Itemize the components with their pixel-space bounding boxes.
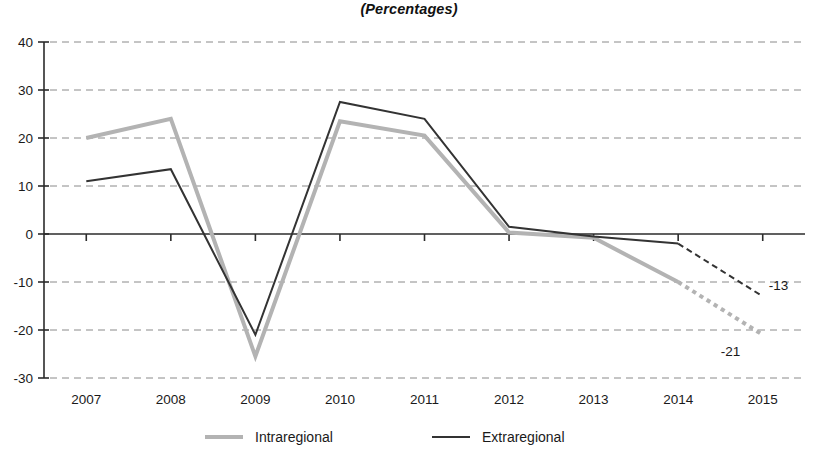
series-projection-intraregional [678,282,763,335]
y-axis-tick-label: -10 [13,275,33,290]
line-chart-plot: 403020100-10-20-30 200720082009201020112… [0,0,818,451]
legend-label-extraregional: Extraregional [482,429,565,445]
zero-axis-group [44,234,805,241]
y-axis-group: 403020100-10-20-30 [13,35,49,386]
y-axis-tick-label: -30 [13,371,33,386]
chart-legend: IntraregionalExtraregional [205,429,565,445]
series-projection-extraregional [678,244,763,297]
series-line-extraregional [86,102,678,335]
y-axis-tick-label: 40 [18,35,33,50]
x-axis-tick-label: 2015 [748,392,778,407]
x-axis-tick-label: 2008 [156,392,186,407]
data-annotations-group: -13-21 [721,278,789,358]
x-axis-tick-label: 2014 [663,392,694,407]
x-axis-tick-label: 2013 [579,392,609,407]
x-axis-tick-label: 2007 [71,392,101,407]
x-axis-tick-label: 2009 [240,392,270,407]
y-axis-tick-label: 20 [18,131,33,146]
data-label-extraregional: -13 [769,278,789,293]
gridlines-group [50,42,805,378]
x-axis-labels-group: 200720082009201020112012201320142015 [71,392,777,407]
y-axis-tick-label: 10 [18,179,33,194]
x-axis-tick-label: 2012 [494,392,524,407]
y-axis-tick-label: 30 [18,83,33,98]
legend-label-intraregional: Intraregional [255,429,333,445]
y-axis-tick-label: 0 [25,227,33,242]
y-axis-tick-label: -20 [13,323,33,338]
data-series-group [86,102,762,356]
x-axis-tick-label: 2011 [410,392,439,407]
chart-figure: (Percentages) 403020100-10-20-30 2007200… [0,0,818,451]
series-line-intraregional [86,119,678,357]
x-axis-tick-label: 2010 [325,392,355,407]
data-label-intraregional: -21 [721,344,741,359]
